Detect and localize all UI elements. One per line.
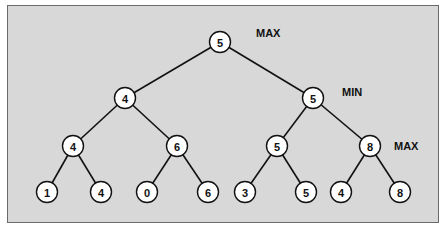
tree-node: 1 [37,182,58,203]
level-label: MAX [394,140,418,152]
node-value: 0 [144,187,150,199]
tree-edges [47,42,400,192]
node-value: 4 [70,141,77,153]
tree-node: 6 [198,182,219,203]
tree-node: 4 [91,182,112,203]
node-value: 8 [397,187,403,199]
node-value: 5 [217,37,223,49]
node-value: 4 [122,93,129,105]
node-value: 4 [338,187,345,199]
tree-node: 5 [210,32,231,53]
node-value: 5 [310,93,316,105]
node-value: 6 [205,187,211,199]
tree-node: 8 [390,182,411,203]
node-value: 5 [303,187,309,199]
level-label: MIN [342,86,362,98]
tree-node: 4 [115,88,136,109]
node-value: 3 [242,187,248,199]
tree-node: 8 [360,136,381,157]
tree-node: 5 [267,136,288,157]
tree-node: 6 [167,136,188,157]
tree-node: 0 [137,182,158,203]
tree-node: 5 [303,88,324,109]
tree-node: 5 [296,182,317,203]
game-tree: 545465814063548 [0,0,443,232]
tree-node: 4 [63,136,84,157]
node-value: 8 [367,141,373,153]
tree-node: 4 [331,182,352,203]
tree-edge [220,42,313,98]
level-label: MAX [256,27,280,39]
node-value: 4 [98,187,105,199]
tree-node: 3 [235,182,256,203]
node-value: 6 [174,141,180,153]
node-value: 5 [274,141,280,153]
node-value: 1 [44,187,50,199]
tree-edge [125,42,220,98]
